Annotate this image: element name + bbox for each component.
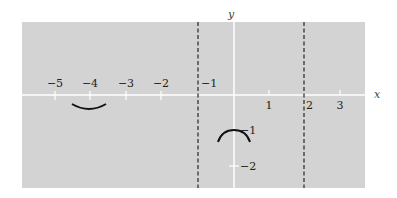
x-axis-label: x [374,88,381,101]
y-tick-label: −2 [240,160,256,173]
x-tick-label: −4 [82,77,98,90]
x-tick-label: −2 [153,77,169,90]
x-tick-label: −5 [47,77,63,90]
y-tick-label: −1 [240,124,256,137]
x-tick-label: 3 [337,99,344,112]
x-tick-label: 1 [266,99,273,112]
graph: −5 −4 −3 −2 −1 1 2 3 −1 −2 x y [0,0,397,198]
y-axis-label: y [227,8,235,21]
x-tick-label: −1 [201,77,217,90]
x-tick-label: −3 [118,77,134,90]
x-tick-label: 2 [306,99,313,112]
